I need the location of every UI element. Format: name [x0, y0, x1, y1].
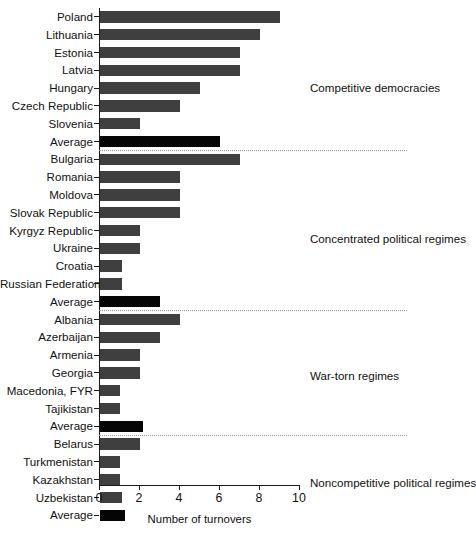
chart-row: Slovak Republic — [0, 204, 476, 222]
category-label: Slovak Republic — [0, 204, 93, 222]
group-annotation-label: War-torn regimes — [310, 369, 399, 382]
category-label: Bulgaria — [0, 150, 93, 168]
category-label: Kyrgyz Republic — [0, 222, 93, 240]
country-bar — [100, 100, 180, 111]
category-label: Lithuania — [0, 26, 93, 44]
chart-row: Tajikistan — [0, 400, 476, 418]
category-label: Poland — [0, 8, 93, 26]
category-label: Average — [0, 417, 93, 435]
country-bar — [100, 403, 120, 414]
category-label: Georgia — [0, 364, 93, 382]
y-axis-tick — [94, 16, 99, 17]
category-label: Belarus — [0, 435, 93, 453]
y-axis-tick — [94, 283, 99, 284]
chart-row: Croatia — [0, 257, 476, 275]
chart-row: Moldova — [0, 186, 476, 204]
category-label: Turkmenistan — [0, 453, 93, 471]
chart-row: Average — [0, 417, 476, 435]
country-bar — [100, 189, 180, 200]
category-label: Macedonia, FYR — [0, 382, 93, 400]
bar-chart-figure: PolandLithuaniaEstoniaLatviaHungaryCzech… — [0, 0, 476, 536]
y-axis-tick — [94, 230, 99, 231]
y-axis-tick — [94, 212, 99, 213]
group-annotation-label: Noncompetitive political regimes — [310, 476, 476, 489]
chart-row: Slovenia — [0, 115, 476, 133]
category-label: Kazakhstan — [0, 471, 93, 489]
x-axis-tick — [179, 485, 180, 490]
x-axis-tick — [99, 485, 100, 490]
x-axis-tick-label: 4 — [164, 491, 194, 505]
category-label: Average — [0, 506, 93, 524]
country-bar — [100, 332, 160, 343]
category-label: Croatia — [0, 257, 93, 275]
chart-row: Turkmenistan — [0, 453, 476, 471]
country-bar — [100, 47, 240, 58]
country-bar — [100, 314, 180, 325]
y-axis-tick — [94, 461, 99, 462]
category-label: Azerbaijan — [0, 328, 93, 346]
country-bar — [100, 225, 140, 236]
y-axis-tick — [94, 301, 99, 302]
y-axis-tick — [94, 177, 99, 178]
category-label: Czech Republic — [0, 97, 93, 115]
chart-row: Latvia — [0, 61, 476, 79]
category-label: Romania — [0, 168, 93, 186]
y-axis-tick — [94, 372, 99, 373]
chart-row: Azerbaijan — [0, 328, 476, 346]
chart-row: Average — [0, 293, 476, 311]
y-axis-tick — [94, 194, 99, 195]
country-bar — [100, 278, 122, 289]
chart-row: Russian Federation — [0, 275, 476, 293]
y-axis-tick — [94, 123, 99, 124]
category-label: Latvia — [0, 61, 93, 79]
country-bar — [100, 65, 240, 76]
group-annotation-label: Concentrated political regimes — [310, 232, 466, 245]
category-label: Slovenia — [0, 115, 93, 133]
chart-row: Belarus — [0, 435, 476, 453]
group-separator-line — [99, 435, 407, 436]
category-label: Armenia — [0, 346, 93, 364]
chart-row: Georgia — [0, 364, 476, 382]
x-axis-tick-label: 10 — [284, 491, 314, 505]
x-axis-tick — [139, 485, 140, 490]
country-bar — [100, 385, 120, 396]
y-axis-tick — [94, 426, 99, 427]
chart-row: Czech Republic — [0, 97, 476, 115]
y-axis-tick — [94, 266, 99, 267]
category-label: Russian Federation — [0, 275, 93, 293]
y-axis-tick — [94, 444, 99, 445]
category-label: Estonia — [0, 44, 93, 62]
category-label: Tajikistan — [0, 400, 93, 418]
country-bar — [100, 11, 280, 22]
country-bar — [100, 367, 140, 378]
category-label: Average — [0, 133, 93, 151]
y-axis-tick — [94, 52, 99, 53]
chart-row: Poland — [0, 8, 476, 26]
group-separator-line — [99, 310, 407, 311]
chart-row: Albania — [0, 311, 476, 329]
x-axis-tick-label: 6 — [204, 491, 234, 505]
country-bar — [100, 154, 240, 165]
y-axis-tick — [94, 355, 99, 356]
chart-row: Estonia — [0, 44, 476, 62]
category-label: Uzbekistan — [0, 489, 93, 507]
y-axis-tick — [94, 319, 99, 320]
chart-row: Romania — [0, 168, 476, 186]
country-bar — [100, 243, 140, 254]
y-axis-tick — [94, 248, 99, 249]
country-bar — [100, 474, 120, 485]
average-bar — [100, 296, 160, 307]
x-axis-tick — [299, 485, 300, 490]
y-axis-tick — [94, 105, 99, 106]
category-label: Moldova — [0, 186, 93, 204]
x-axis-tick-label: 8 — [244, 491, 274, 505]
chart-row: Uzbekistan — [0, 489, 476, 507]
chart-row: Lithuania — [0, 26, 476, 44]
group-separator-line — [99, 150, 407, 151]
chart-row: Macedonia, FYR — [0, 382, 476, 400]
country-bar — [100, 456, 120, 467]
y-axis-tick — [94, 141, 99, 142]
y-axis-tick — [94, 479, 99, 480]
y-axis-tick — [94, 70, 99, 71]
chart-row: Armenia — [0, 346, 476, 364]
